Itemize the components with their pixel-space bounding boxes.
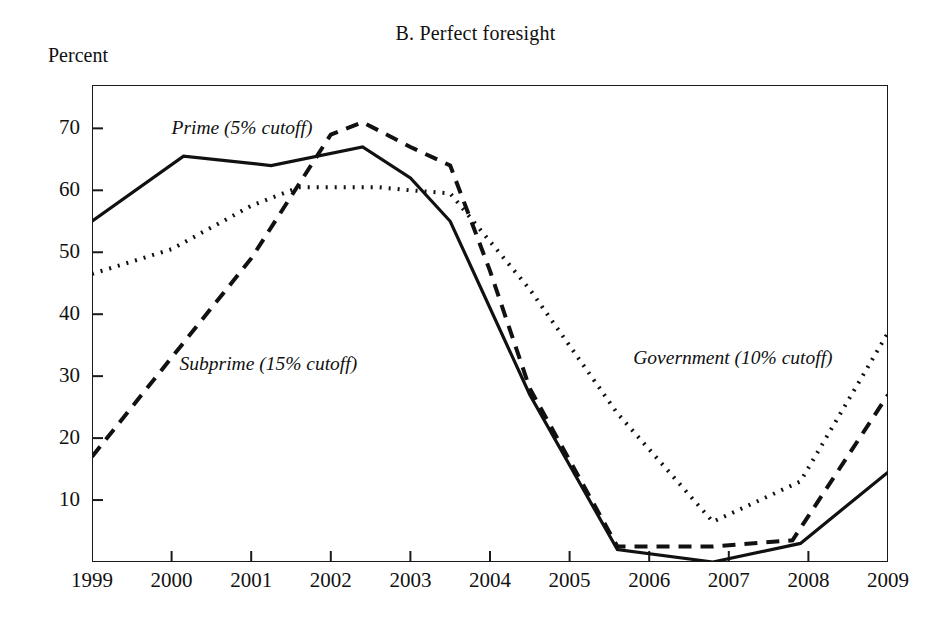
- y-axis-tick-label: 40: [34, 301, 80, 326]
- y-axis-tick-label: 30: [34, 363, 80, 388]
- y-axis-tick-label: 70: [34, 115, 80, 140]
- chart-canvas: [92, 85, 888, 562]
- y-axis-tick-label: 10: [34, 487, 80, 512]
- series-label-government: Government (10% cutoff): [633, 347, 832, 369]
- x-axis-tick-label: 2009: [848, 568, 928, 593]
- x-axis-tick-label: 2007: [689, 568, 769, 593]
- x-axis-tick-label: 2008: [768, 568, 848, 593]
- x-axis-tick-label: 2006: [609, 568, 689, 593]
- x-axis-tick-label: 2000: [132, 568, 212, 593]
- y-axis-tick-label: 50: [34, 239, 80, 264]
- axis-frame: [92, 85, 888, 562]
- series-label-prime: Prime (5% cutoff): [172, 117, 313, 139]
- series-label-subprime: Subprime (15% cutoff): [180, 353, 358, 375]
- series-line-subprime: [92, 122, 888, 546]
- y-axis-tick-label: 60: [34, 177, 80, 202]
- y-axis-tick-label: 20: [34, 425, 80, 450]
- y-axis-unit-label: Percent: [48, 44, 108, 67]
- chart-figure: B. Perfect foresight Percent 10203040506…: [0, 0, 951, 632]
- x-axis-tick-label: 1999: [52, 568, 132, 593]
- x-axis-tick-label: 2005: [530, 568, 610, 593]
- x-axis-tick-label: 2002: [291, 568, 371, 593]
- x-axis-tick-label: 2004: [450, 568, 530, 593]
- plot-area: [92, 85, 888, 562]
- x-axis-tick-label: 2001: [211, 568, 291, 593]
- x-axis-tick-label: 2003: [370, 568, 450, 593]
- y-axis-ticks: [92, 128, 103, 500]
- page-title: B. Perfect foresight: [0, 22, 951, 45]
- x-axis-ticks: [172, 551, 888, 562]
